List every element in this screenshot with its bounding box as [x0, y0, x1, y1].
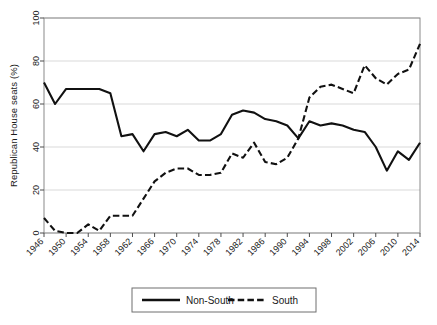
- x-axis-tick-marks: [44, 233, 420, 237]
- x-tick-label: 2014: [400, 236, 421, 257]
- x-tick-label: 1958: [91, 236, 112, 257]
- y-tick-label: 80: [31, 56, 41, 66]
- series-line-non-south: [44, 83, 420, 171]
- x-tick-label: 1990: [267, 236, 288, 257]
- y-tick-label: 0: [31, 230, 41, 235]
- x-tick-label: 1962: [113, 236, 134, 257]
- plot-frame: [44, 18, 420, 233]
- series-line-south: [44, 44, 420, 233]
- x-tick-label: 1974: [179, 236, 200, 257]
- x-tick-label: 1970: [157, 236, 178, 257]
- x-tick-label: 1994: [290, 236, 311, 257]
- x-tick-label: 1950: [46, 236, 67, 257]
- x-tick-label: 1978: [201, 236, 222, 257]
- legend-label-non-south: Non-South: [186, 295, 234, 306]
- plot-border: [44, 18, 420, 233]
- legend-label-south: South: [272, 295, 298, 306]
- gridlines: [44, 18, 420, 233]
- x-tick-label: 2006: [356, 236, 377, 257]
- y-tick-label: 20: [31, 185, 41, 195]
- y-tick-label: 60: [31, 99, 41, 109]
- x-tick-label: 1966: [135, 236, 156, 257]
- x-tick-label: 1954: [68, 236, 89, 257]
- y-axis-tick-labels: 020406080100: [31, 10, 44, 235]
- chart-figure: Republican House seats (%) 020406080100 …: [0, 0, 437, 325]
- x-tick-label: 1982: [223, 236, 244, 257]
- x-tick-label: 2002: [334, 236, 355, 257]
- x-tick-label: 1998: [312, 236, 333, 257]
- x-tick-label: 1986: [245, 236, 266, 257]
- x-axis-tick-labels: 1946195019541958196219661970197419781982…: [24, 236, 421, 257]
- y-tick-label: 40: [31, 142, 41, 152]
- line-chart: 020406080100 194619501954195819621966197…: [0, 0, 437, 325]
- x-tick-label: 2010: [378, 236, 399, 257]
- x-tick-label: 1946: [24, 236, 45, 257]
- data-series: [44, 44, 420, 233]
- y-tick-label: 100: [31, 10, 41, 25]
- chart-legend: Non-SouthSouth: [132, 288, 316, 312]
